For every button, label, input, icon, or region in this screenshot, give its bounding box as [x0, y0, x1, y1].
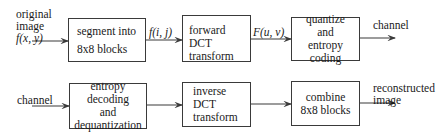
input-label-line-2: image: [16, 20, 52, 32]
edge-label-F-u-v: F(u, v): [253, 26, 284, 38]
quantize-line-2: and: [317, 26, 334, 39]
entropy-decoding-line-3: dequantization: [74, 119, 142, 132]
decoder-input-channel-label: channel: [17, 94, 53, 106]
forward-dct-line-2: transform: [189, 50, 234, 63]
inverse-dct-line-2: transform: [193, 111, 238, 124]
quantize-block: quantize and entropy coding: [291, 17, 360, 61]
entropy-decoding-line-1: entropy decoding: [70, 80, 146, 106]
entropy-decoding-line-2: and: [100, 106, 117, 119]
inverse-dct-line-1: inverse DCT: [193, 85, 250, 111]
input-label-line-1: original: [16, 8, 52, 20]
forward-dct-block: forward DCT transform: [182, 15, 251, 62]
quantize-line-3: entropy coding: [292, 39, 359, 65]
input-label-function: f(x, y): [16, 32, 52, 44]
edge-label-f-i-j: f(i, j): [149, 26, 172, 38]
reconstructed-image-label: reconstructed image: [373, 82, 435, 106]
combine-line-2: 8x8 blocks: [300, 104, 350, 117]
output-label-line-2: image: [373, 94, 435, 106]
segment-block-line-1: segment into: [77, 22, 136, 40]
combine-block: combine 8x8 blocks: [291, 81, 360, 126]
encoder-output-channel-label: channel: [373, 19, 409, 31]
combine-line-1: combine: [306, 91, 346, 104]
quantize-line-1: quantize: [306, 13, 345, 26]
forward-dct-line-1: forward DCT: [189, 24, 250, 50]
inverse-dct-block: inverse DCT transform: [182, 82, 251, 127]
output-label-line-1: reconstructed: [373, 82, 435, 94]
segment-block: segment into 8x8 blocks: [68, 18, 146, 62]
segment-block-line-2: 8x8 blocks: [77, 40, 127, 58]
encoder-input-label: original image f(x, y): [16, 8, 52, 44]
entropy-decoding-block: entropy decoding and dequantization: [69, 83, 147, 129]
